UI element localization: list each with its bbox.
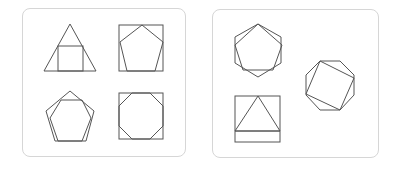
triangle-with-inscribed-square [44, 24, 96, 71]
figures-canvas [0, 0, 397, 172]
hexagon-with-inscribed-pentagon [235, 24, 282, 77]
square-with-inscribed-octagon [119, 93, 163, 139]
pentagon-with-inscribed-hexagon [46, 91, 94, 141]
square-with-inscribed-triangle [235, 96, 280, 142]
octagon-with-inscribed-square [306, 61, 354, 110]
square-with-inscribed-pentagon [119, 25, 163, 71]
